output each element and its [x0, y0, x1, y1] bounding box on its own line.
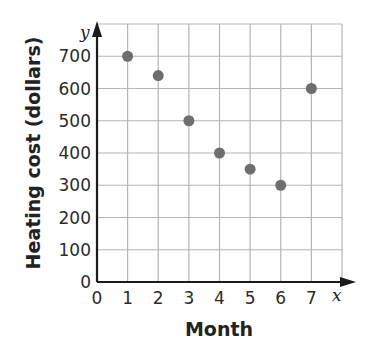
x-tick-label: 7 [306, 288, 317, 308]
data-point [183, 115, 194, 126]
y-tick-label: 700 [59, 46, 91, 66]
x-tick-label: 5 [245, 288, 256, 308]
x-tick-label: 0 [92, 288, 103, 308]
data-point [153, 70, 164, 81]
data-point [245, 164, 256, 175]
scatter-chart: 0100200300400500600700 01234567 y x Mont… [0, 0, 367, 356]
y-tick-label: 300 [59, 175, 91, 195]
y-tick-label: 500 [59, 111, 91, 131]
x-tick-labels: 01234567 [92, 288, 317, 308]
y-tick-label: 400 [59, 143, 91, 163]
x-tick-label: 1 [122, 288, 133, 308]
x-tick-label: 2 [153, 288, 164, 308]
x-axis-variable: x [332, 285, 342, 305]
data-point [306, 83, 317, 94]
y-tick-label: 600 [59, 79, 91, 99]
data-point [122, 51, 133, 62]
x-tick-label: 3 [183, 288, 194, 308]
y-axis-title: Heating cost (dollars) [22, 37, 44, 270]
y-axis-variable: y [79, 22, 90, 42]
data-point [214, 148, 225, 159]
x-tick-label: 4 [214, 288, 225, 308]
x-tick-label: 6 [275, 288, 286, 308]
y-tick-labels: 0100200300400500600700 [59, 46, 91, 292]
y-tick-label: 100 [59, 240, 91, 260]
x-axis-title: Month [185, 318, 253, 340]
y-tick-label: 200 [59, 208, 91, 228]
y-tick-label: 0 [80, 272, 91, 292]
x-axis-arrow-icon [340, 277, 356, 287]
data-point [275, 180, 286, 191]
